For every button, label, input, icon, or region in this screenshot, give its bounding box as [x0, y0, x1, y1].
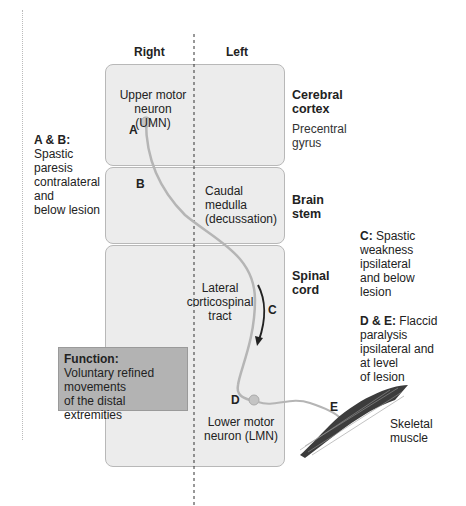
lateral-corticospinal-tract-label: Lateral corticospinal tract [180, 281, 260, 323]
marker-c: C [268, 303, 277, 317]
brainstem-label: Brain stem [292, 193, 324, 221]
skeletal-muscle-label: Skeletal muscle [390, 417, 433, 445]
function-box: Function: Voluntary refined movements of… [58, 347, 188, 411]
annotation-c: C: Spastic weakness ipsilateral and belo… [360, 229, 415, 299]
lmn-cell-body [249, 395, 259, 405]
marker-e: E [330, 400, 338, 414]
annotation-ab: A & B: Spastic paresis contralateral and… [34, 133, 100, 217]
marker-b: B [136, 177, 145, 191]
umn-label: Upper motor neuron (UMN) [115, 88, 191, 130]
cerebral-cortex-label: Cerebral cortex [292, 88, 343, 116]
marker-d: D [231, 393, 240, 407]
annotation-de: D & E: Flaccid paralysis ipsilateral and… [360, 314, 437, 384]
marker-a: A [129, 123, 138, 137]
precentral-gyrus-label: Precentral gyrus [292, 122, 347, 150]
caudal-medulla-label: Caudal medulla (decussation) [205, 184, 277, 226]
lmn-label: Lower motor neuron (LMN) [200, 415, 282, 443]
spinal-cord-label: Spinal cord [292, 269, 330, 297]
